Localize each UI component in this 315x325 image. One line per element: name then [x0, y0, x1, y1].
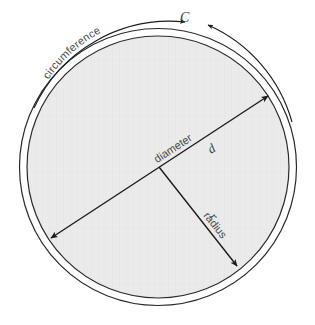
diagram-canvas: circumference C diameter d radius r — [0, 0, 315, 325]
circle-diagram-figure: circumference C diameter d radius r — [0, 0, 315, 325]
circumference-symbol-label: C — [180, 10, 190, 25]
inner-circle — [27, 36, 289, 298]
